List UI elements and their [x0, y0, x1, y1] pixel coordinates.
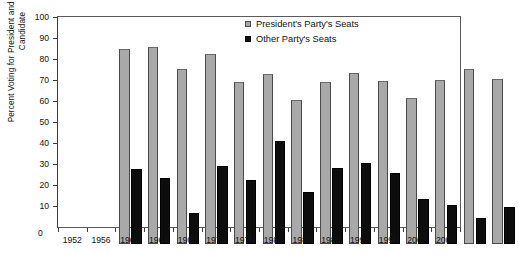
legend-swatch-presidents-party [245, 21, 251, 27]
x-axis-tick-label: 1984 [292, 235, 311, 245]
y-axis-tick-text: 10 [39, 201, 49, 211]
plot-area [57, 16, 461, 228]
legend-swatch-other-party [245, 36, 251, 42]
legend-label-presidents-party: President's Party's Seats [256, 19, 359, 29]
bar-other-party [504, 207, 515, 244]
bar-group [202, 34, 231, 244]
x-axis-tick-label: 1972 [206, 235, 225, 245]
x-axis-tick-mark [144, 228, 145, 232]
bar-presidents-party [263, 74, 274, 244]
y-axis-tick-text: 50 [39, 117, 49, 127]
x-axis-tick-mark [374, 228, 375, 232]
x-axis-tick-mark [87, 228, 88, 232]
x-axis-tick-label: 1976 [235, 235, 254, 245]
x-axis-tick-label: 1992 [350, 235, 369, 245]
x-axis-tick-label: 1988 [321, 235, 340, 245]
bar-presidents-party [177, 69, 188, 244]
bar-presidents-party [378, 81, 389, 244]
bar-presidents-party [320, 82, 331, 244]
bar-presidents-party [119, 49, 130, 244]
bar-presidents-party [291, 100, 302, 244]
bar-presidents-party [205, 54, 216, 244]
x-axis-tick-mark [345, 228, 346, 232]
y-axis-tick-text: 20 [39, 180, 49, 190]
bar-group [173, 34, 202, 244]
bar-series-container [116, 34, 518, 244]
bar-presidents-party [464, 69, 475, 244]
x-axis-tick-label: 1952 [63, 235, 82, 245]
bar-group [403, 34, 432, 244]
x-axis-tick-label: 2004 [436, 235, 455, 245]
bar-group [145, 34, 174, 244]
y-axis-tick-text: 40 [39, 138, 49, 148]
x-axis-tick-label: 2000 [407, 235, 426, 245]
x-axis-tick-label: 1964 [149, 235, 168, 245]
chart-legend: President's Party's Seats Other Party's … [245, 17, 359, 47]
bar-presidents-party [234, 82, 245, 244]
bar-group [346, 34, 375, 244]
bar-group [260, 34, 289, 244]
bar-group [489, 34, 518, 244]
legend-item-presidents-party: President's Party's Seats [245, 17, 359, 30]
bar-other-party [476, 218, 487, 244]
bar-presidents-party [148, 47, 159, 244]
x-axis-tick-label: 1956 [91, 235, 110, 245]
y-axis-tick-text: 90 [39, 33, 49, 43]
bar-group [461, 34, 490, 244]
x-axis-tick-mark [173, 228, 174, 232]
x-axis-tick-label: 1996 [379, 235, 398, 245]
y-axis-tick-text: 100 [35, 12, 49, 22]
bar-group [116, 34, 145, 244]
bar-group [432, 34, 461, 244]
x-axis-tick-mark [403, 228, 404, 232]
bar-presidents-party [492, 79, 503, 244]
bar-group [231, 34, 260, 244]
x-axis-tick-mark [259, 228, 260, 232]
legend-label-other-party: Other Party's Seats [256, 34, 336, 44]
y-axis-tick-text: 60 [39, 96, 49, 106]
bar-group [317, 34, 346, 244]
y-axis-tick-text: 80 [39, 54, 49, 64]
x-axis-tick-mark [460, 228, 461, 232]
bar-presidents-party [349, 73, 360, 244]
x-axis-tick-mark [115, 228, 116, 232]
x-axis-tick-label: 1980 [264, 235, 283, 245]
y-axis-zero-label: 0 [38, 228, 43, 238]
x-axis-tick-mark [316, 228, 317, 232]
bar-group [374, 34, 403, 244]
x-axis-tick-mark [431, 228, 432, 232]
y-axis-ticks: 102030405060708090100 [0, 0, 57, 254]
x-axis-tick-mark [230, 228, 231, 232]
x-axis-tick-label: 1960 [120, 235, 139, 245]
x-axis-ticks: 1952195619601964196819721976198019841988… [57, 228, 461, 254]
y-axis-tick-text: 30 [39, 159, 49, 169]
bar-presidents-party [406, 98, 417, 244]
x-axis-tick-mark [288, 228, 289, 232]
bar-group [288, 34, 317, 244]
x-axis-tick-label: 1968 [178, 235, 197, 245]
bar-presidents-party [435, 80, 446, 244]
legend-item-other-party: Other Party's Seats [245, 32, 359, 45]
x-axis-tick-mark [202, 228, 203, 232]
y-axis-tick-text: 70 [39, 75, 49, 85]
x-axis-tick-mark [58, 228, 59, 232]
